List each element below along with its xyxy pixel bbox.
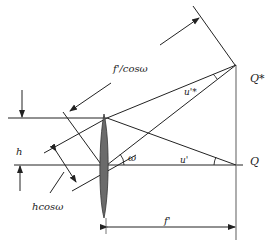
ray-to-Q xyxy=(107,118,236,165)
hcos-leader xyxy=(50,172,64,193)
label-f-prime: f' xyxy=(163,215,170,226)
label-omega: ω xyxy=(128,152,136,163)
label-Q-star: Q* xyxy=(250,72,265,85)
u-star-angle-arc xyxy=(213,74,217,79)
label-Q: Q xyxy=(250,155,259,168)
optics-diagram: f'/cosω u'* Q* ω u' Q h hcosω f' xyxy=(0,0,269,248)
label-u-star: u'* xyxy=(184,87,197,97)
label-u-prime: u' xyxy=(180,155,188,165)
oblique-ray-to-Qstar xyxy=(107,65,236,165)
hcos-dimension-arrow xyxy=(56,151,76,182)
f-over-cos-arrow-top xyxy=(160,18,199,45)
f-over-cos-arrow-left xyxy=(70,83,111,111)
lens xyxy=(100,114,108,218)
oblique-incoming-upper xyxy=(44,118,107,153)
label-h: h xyxy=(16,146,22,157)
label-hcos: hcosω xyxy=(32,201,63,212)
tilted-focal-line xyxy=(193,6,235,65)
u-prime-angle-arc xyxy=(214,157,216,165)
label-f-over-cos: f'/cosω xyxy=(112,63,148,74)
